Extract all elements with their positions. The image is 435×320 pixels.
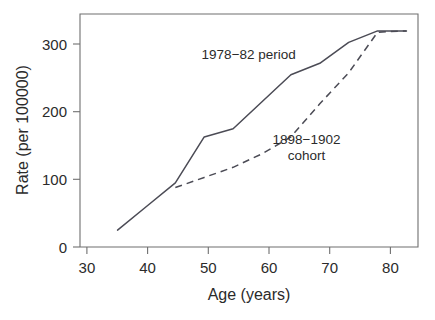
y-tick-label-200: 200: [42, 103, 67, 120]
cohort-annotation-label-line2: cohort: [288, 148, 326, 163]
y-tick-labels: 300 200 100 0: [42, 36, 67, 256]
period-annotation: 1978−82 period: [202, 47, 296, 62]
line-chart: 300 200 100 0 30 40 50 60 70 80 Age (yea…: [0, 0, 435, 320]
cohort-annotation: 1898−1902 cohort: [273, 132, 341, 163]
x-tick-label-50: 50: [200, 259, 217, 276]
x-tick-labels: 30 40 50 60 70 80: [79, 259, 399, 276]
x-tick-label-80: 80: [382, 259, 399, 276]
y-tick-label-0: 0: [59, 239, 67, 256]
cut-off-caption: [0, 307, 435, 320]
x-tick-label-60: 60: [261, 259, 278, 276]
y-axis-ticks: [73, 44, 80, 247]
x-tick-label-70: 70: [321, 259, 338, 276]
x-axis-title: Age (years): [208, 286, 291, 303]
y-tick-label-100: 100: [42, 171, 67, 188]
cohort-annotation-label-line1: 1898−1902: [273, 132, 341, 147]
x-tick-label-40: 40: [139, 259, 156, 276]
x-axis-ticks: [87, 247, 391, 254]
y-tick-label-300: 300: [42, 36, 67, 53]
y-axis-title: Rate (per 100000): [14, 65, 31, 195]
period-annotation-label: 1978−82 period: [202, 47, 296, 62]
x-tick-label-30: 30: [79, 259, 96, 276]
figure-container: 300 200 100 0 30 40 50 60 70 80 Age (yea…: [0, 0, 435, 320]
